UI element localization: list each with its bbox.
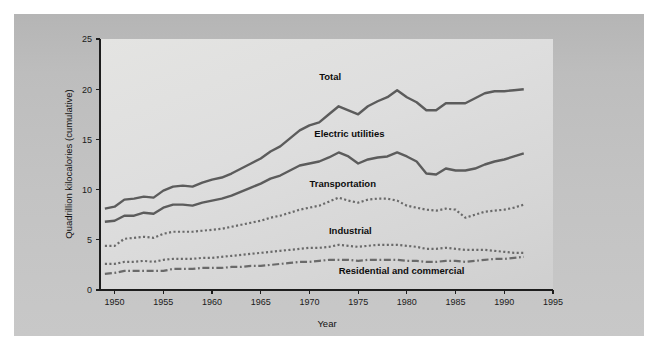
y-tick-label: 15 — [82, 135, 92, 145]
series-label: Electric utilities — [314, 128, 384, 139]
series-label: Industrial — [329, 225, 372, 236]
x-tick-label: 1970 — [299, 297, 319, 307]
x-tick-label: 1995 — [543, 297, 563, 307]
x-tick-label: 1965 — [251, 297, 271, 307]
x-axis: 1950195519601965197019751980198519901995 — [100, 290, 563, 307]
y-tick-label: 5 — [87, 235, 92, 245]
x-tick-label: 1960 — [202, 297, 222, 307]
y-tick-label: 25 — [82, 34, 92, 44]
x-tick-label: 1950 — [105, 297, 125, 307]
y-tick-label: 0 — [87, 285, 92, 295]
x-tick-label: 1985 — [446, 297, 466, 307]
x-tick-label: 1955 — [153, 297, 173, 307]
x-tick-label: 1990 — [494, 297, 514, 307]
figure-root: 0510152025 19501955196019651970197519801… — [0, 0, 671, 350]
y-axis: 0510152025 — [82, 34, 100, 295]
y-axis-title: Quadrillion kilocalories (cumulative) — [63, 89, 74, 238]
y-tick-label: 20 — [82, 85, 92, 95]
x-tick-label: 1980 — [397, 297, 417, 307]
line-chart: 0510152025 19501955196019651970197519801… — [0, 0, 671, 350]
x-tick-label: 1975 — [348, 297, 368, 307]
series-label: Transportation — [309, 178, 376, 189]
x-axis-title: Year — [317, 318, 336, 329]
series-label: Total — [319, 71, 341, 82]
series-label: Residential and commercial — [339, 265, 465, 276]
y-tick-label: 10 — [82, 185, 92, 195]
series-line — [105, 89, 524, 208]
series-line — [105, 198, 524, 246]
